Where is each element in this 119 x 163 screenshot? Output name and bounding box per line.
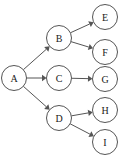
arrowhead-icon — [88, 75, 93, 81]
node-circle[interactable] — [93, 98, 118, 123]
edge-line — [23, 86, 46, 106]
edge-b-to-f — [71, 42, 93, 50]
directed-graph: ABCDEFGHI — [0, 0, 119, 163]
edge-line — [71, 113, 88, 116]
node-circle[interactable] — [93, 40, 118, 65]
node-f[interactable]: F — [93, 40, 118, 65]
edge-a-to-c — [27, 75, 47, 81]
edge-d-to-h — [71, 110, 92, 116]
node-circle[interactable] — [93, 5, 118, 30]
node-circle[interactable] — [47, 26, 72, 51]
node-circle[interactable] — [2, 66, 27, 91]
edge-a-to-b — [23, 46, 49, 69]
edge-d-to-i — [70, 124, 94, 137]
edge-line — [71, 42, 89, 47]
node-i[interactable]: I — [93, 130, 118, 155]
edge-line — [23, 49, 46, 69]
node-c[interactable]: C — [47, 66, 72, 91]
diagram-canvas: ABCDEFGHI — [0, 0, 119, 163]
node-circle[interactable] — [47, 106, 72, 131]
node-g[interactable]: G — [93, 67, 118, 92]
arrowhead-icon — [88, 110, 93, 116]
edge-a-to-d — [23, 86, 49, 109]
edge-b-to-e — [70, 21, 93, 33]
node-circle[interactable] — [47, 66, 72, 91]
node-circle[interactable] — [93, 67, 118, 92]
edge-line — [70, 24, 89, 33]
node-h[interactable]: H — [93, 98, 118, 123]
node-d[interactable]: D — [47, 106, 72, 131]
node-e[interactable]: E — [93, 5, 118, 30]
arrowhead-icon — [42, 75, 47, 81]
nodes-layer: ABCDEFGHI — [2, 5, 118, 155]
edge-line — [70, 124, 90, 134]
node-circle[interactable] — [93, 130, 118, 155]
node-b[interactable]: B — [47, 26, 72, 51]
edge-c-to-g — [72, 75, 93, 81]
node-a[interactable]: A — [2, 66, 27, 91]
